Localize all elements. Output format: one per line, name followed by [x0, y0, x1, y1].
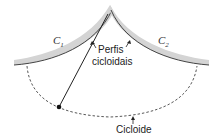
label-cycloid: Cicloide [116, 124, 152, 135]
cycloidal-pendulum-diagram: C1 C2 Perfis cicloidais Cicloide [0, 0, 221, 139]
label-profiles-line2: cicloidais [92, 56, 133, 67]
pendulum-bob [57, 105, 62, 110]
cycloid-curve [27, 66, 197, 117]
label-c2: C2 [158, 34, 169, 49]
arrowhead-profile-right-icon [127, 40, 131, 44]
arrowhead-cycloid-icon [131, 116, 135, 120]
label-c1: C1 [53, 34, 64, 49]
label-profiles-line1: Perfis [98, 44, 124, 55]
